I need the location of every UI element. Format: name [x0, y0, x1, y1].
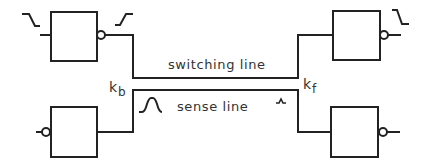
k-f-subscript: f — [312, 82, 317, 96]
inversion-bubble-icon — [379, 128, 387, 136]
falling-edge-waveform-icon — [22, 14, 40, 26]
k-f-main: k — [303, 76, 312, 92]
gate-top-right — [333, 11, 401, 60]
gate-body — [51, 107, 97, 157]
gate-body — [51, 12, 97, 61]
gate-top-left — [40, 12, 105, 61]
gate-bottom-left — [36, 107, 97, 157]
inversion-bubble-icon — [97, 31, 105, 39]
switching-line-label: switching line — [168, 57, 266, 72]
falling-edge-waveform-icon — [392, 10, 409, 24]
rising-edge-waveform-icon — [115, 14, 133, 25]
small-pulse-waveform-icon — [276, 99, 286, 103]
k-f-label: k f — [303, 76, 317, 96]
inversion-bubble-icon — [42, 128, 50, 136]
k-b-main: k — [109, 79, 118, 95]
gate-bottom-right — [331, 107, 400, 157]
large-pulse-waveform-icon — [139, 98, 162, 112]
crosstalk-diagram: switching line sense line k b k f — [0, 0, 427, 166]
sense-line-label: sense line — [177, 99, 248, 114]
gate-body — [331, 107, 378, 157]
k-b-label: k b — [109, 79, 126, 99]
gate-body — [333, 11, 380, 60]
k-b-subscript: b — [118, 85, 126, 99]
inversion-bubble-icon — [380, 31, 388, 39]
